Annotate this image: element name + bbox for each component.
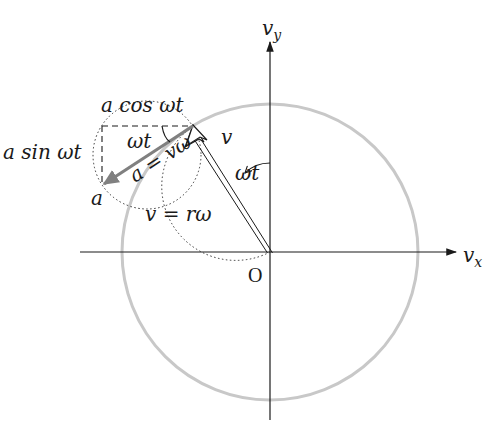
hodograph-diagram: vy vx O v ωt v = rω ωt a = vω a a cos ωt… [0,0,494,439]
angle-label-origin: ωt [235,161,260,185]
y-axis-label: vy [262,16,282,43]
velocity-relation-label: v = rω [145,202,212,226]
acceleration-point-label: a [91,186,103,210]
origin-label: O [248,264,262,286]
x-axis-label: vx [463,243,482,270]
a-sin-label: a sin ωt [3,140,82,164]
a-cos-label: a cos ωt [101,93,184,117]
angle-label-tip: ωt [127,129,152,153]
velocity-label: v [221,125,233,149]
